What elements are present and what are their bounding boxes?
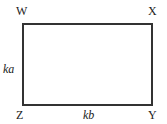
vertex-label-y: Y bbox=[148, 109, 157, 121]
side-label-left: ka bbox=[3, 63, 14, 75]
vertex-label-z: Z bbox=[16, 109, 23, 121]
vertex-label-w: W bbox=[16, 5, 27, 17]
side-label-bottom: kb bbox=[83, 109, 94, 121]
vertex-label-x: X bbox=[148, 5, 157, 17]
rectangle-wxyz bbox=[22, 23, 153, 106]
